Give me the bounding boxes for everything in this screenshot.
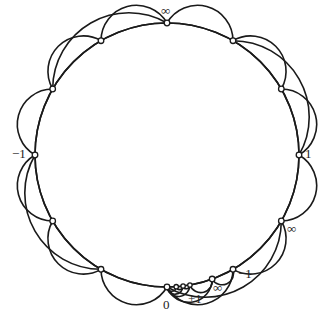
farey-diagram: ∞ −1 1 0 +1 ∞ −1 ∞ xyxy=(0,0,318,319)
boundary-circle xyxy=(35,23,299,287)
ideal-vertex xyxy=(32,152,38,158)
label-left-minus-one: −1 xyxy=(12,147,26,160)
geodesic-arc xyxy=(48,221,101,274)
label-right-infinity: ∞ xyxy=(287,222,296,235)
ideal-vertex xyxy=(296,152,302,158)
ideal-vertex xyxy=(230,38,236,44)
label-bottom-plus-one: +1 xyxy=(188,292,202,305)
ideal-vertex xyxy=(174,284,178,288)
label-bottom-minus-one: −1 xyxy=(238,267,252,280)
poincare-disk xyxy=(0,0,318,319)
ideal-vertex xyxy=(279,218,285,224)
ideal-vertex xyxy=(98,267,104,273)
label-top-infinity: ∞ xyxy=(161,4,170,17)
ideal-vertex xyxy=(279,86,285,92)
label-bottom-infinity: ∞ xyxy=(213,281,222,294)
ideal-vertex xyxy=(164,20,170,26)
geodesic-arc xyxy=(48,36,101,89)
ideal-vertex xyxy=(50,218,56,224)
ideal-vertex xyxy=(50,86,56,92)
ideal-vertex xyxy=(188,283,192,287)
ideal-vertex xyxy=(164,284,170,290)
ideal-vertex xyxy=(230,267,236,273)
label-right-one: 1 xyxy=(305,147,312,160)
label-bottom-zero: 0 xyxy=(163,298,170,311)
ideal-vertex xyxy=(98,38,104,44)
geodesic-arc xyxy=(233,36,286,89)
ideal-vertex xyxy=(181,284,185,288)
